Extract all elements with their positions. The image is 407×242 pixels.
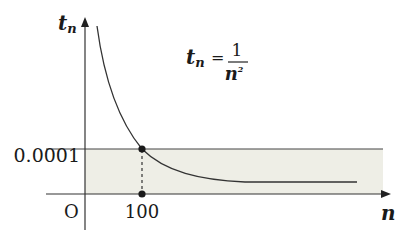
shaded-region [85, 149, 383, 194]
svg-text:n2: n2 [225, 63, 244, 84]
svg-text:=: = [211, 48, 224, 67]
x-axis-label: n [381, 201, 396, 225]
formula: tn = 1 n2 [186, 40, 248, 84]
y-axis-arrow-icon [81, 17, 89, 27]
x-tick-label-100: 100 [125, 201, 159, 222]
x-axis-arrow-icon [381, 190, 391, 198]
x-axis-point [138, 190, 145, 197]
threshold-label: 0.0001 [14, 144, 80, 166]
svg-text:tn: tn [186, 45, 205, 70]
y-axis-label: tn [58, 11, 77, 36]
intersection-point [138, 145, 145, 152]
graph-canvas: tn tn = 1 n2 0.0001 O 100 n [0, 0, 407, 242]
svg-text:1: 1 [232, 40, 243, 60]
origin-label: O [64, 201, 79, 222]
